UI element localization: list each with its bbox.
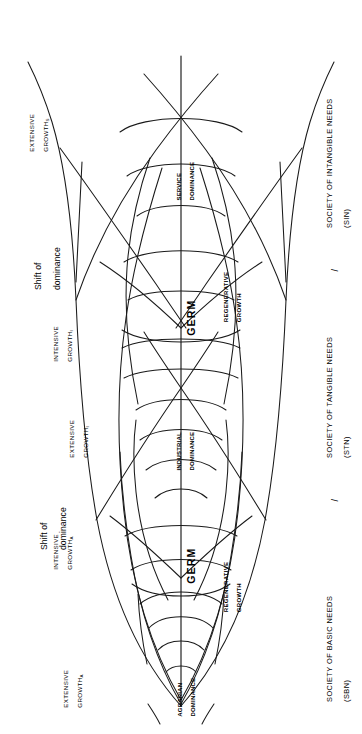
dominance-label-agrarian: AGRARIAN DOMINANCE — [170, 678, 204, 724]
regen-line1: REGENERATIVE — [223, 272, 229, 323]
dominance-line2: DOMINANCE — [190, 678, 196, 717]
society-separator-lower: / — [320, 499, 350, 512]
society-label-text: SOCIETY OF TANGIBLE NEEDS — [325, 337, 334, 458]
dominance-label-service: SERVICE DOMINANCE — [169, 162, 203, 208]
regenerative-growth-lower: REGENERATIVE GROWTH — [216, 562, 250, 620]
germ-lower-waist-left — [134, 420, 168, 600]
growth-label-extensive-i: EXTENSIVE GROWTHI — [62, 420, 97, 466]
dominance-line1: AGRARIAN — [177, 683, 183, 717]
shift-diagonal-upper-left — [60, 148, 186, 328]
society-label-abbr: (SIN) — [342, 208, 351, 228]
growth-label-subscript: A — [69, 536, 74, 539]
shift-of-dominance-upper: Shift of dominance — [24, 247, 72, 300]
regen-line2: GROWTH — [236, 293, 242, 322]
society-label-abbr: (STN) — [342, 436, 351, 458]
shift-line1: Shift of — [33, 262, 43, 290]
regen-line1: REGENERATIVE — [223, 562, 229, 613]
growth-label-subscript: A — [79, 674, 84, 677]
regen-line2: GROWTH — [236, 583, 242, 612]
dominance-line2: DOMINANCE — [189, 432, 195, 471]
germ-label-lower: GERM — [174, 548, 210, 600]
germ-text: GERM — [185, 548, 197, 584]
growth-label-line2: GROWTH — [66, 331, 73, 361]
regenerative-growth-upper: REGENERATIVE GROWTH — [216, 272, 250, 330]
spoke-lower-left-1 — [138, 594, 147, 664]
growth-label-line1: EXTENSIVE — [68, 420, 75, 458]
germ-label-upper: GERM — [174, 300, 210, 352]
society-label-abbr: (SBN) — [342, 680, 351, 702]
growth-label-line1: EXTENSIVE — [62, 670, 69, 708]
base-stroke-right — [202, 704, 214, 724]
growth-label-intensive-a: INTENSIVE GROWTHA — [46, 534, 81, 578]
germ-text: GERM — [185, 300, 197, 336]
growth-label-line2: GROWTH — [76, 677, 83, 707]
growth-label-subscript: S — [45, 118, 50, 121]
dominance-line2: DOMINANCE — [189, 162, 195, 201]
society-separator-upper: / — [320, 269, 350, 282]
dominance-line1: INDUSTRIAL — [176, 432, 182, 470]
separator-text: / — [330, 499, 340, 502]
dominance-line1: SERVICE — [176, 173, 182, 201]
society-label-tangible: SOCIETY OF TANGIBLE NEEDS (STN) — [318, 337, 359, 468]
growth-label-line1: INTENSIVE — [52, 534, 59, 570]
growth-label-line2: GROWTH — [66, 539, 73, 569]
society-label-basic: SOCIETY OF BASIC NEEDS (SBN) — [318, 596, 359, 712]
separator-text: / — [330, 269, 340, 272]
flank-right-upper — [280, 162, 286, 282]
shift-line2: dominance — [52, 247, 62, 290]
diagram-canvas: EXTENSIVE GROWTHS Shift of dominance INT… — [0, 0, 362, 734]
shift-diagonal-lower-right — [144, 332, 266, 520]
envelope-lower-outer — [181, 62, 334, 706]
growth-label-extensive-a: EXTENSIVE GROWTHA — [56, 670, 91, 716]
growth-label-line1: EXTENSIVE — [28, 114, 35, 152]
dominance-label-industrial: INDUSTRIAL DOMINANCE — [169, 432, 203, 478]
society-label-text: SOCIETY OF BASIC NEEDS — [325, 596, 334, 702]
extensive-growth-s-branch-right — [144, 74, 286, 300]
funnel-line-upper-left-a — [126, 158, 150, 404]
flank-left-upper — [76, 162, 82, 282]
growth-label-extensive-s: EXTENSIVE GROWTHS — [22, 114, 57, 160]
growth-label-line2: GROWTH — [82, 427, 89, 457]
growth-label-line2: GROWTH — [42, 121, 49, 151]
society-label-text: SOCIETY OF INTANGIBLE NEEDS — [325, 98, 334, 228]
base-stroke-left — [148, 704, 160, 724]
shift-diagonal-lower-left — [96, 332, 218, 520]
growth-label-intensive-i: INTENSIVE GROWTHI — [46, 326, 81, 370]
growth-label-line1: INTENSIVE — [52, 326, 59, 362]
society-label-intangible: SOCIETY OF INTANGIBLE NEEDS (SIN) — [318, 98, 359, 238]
